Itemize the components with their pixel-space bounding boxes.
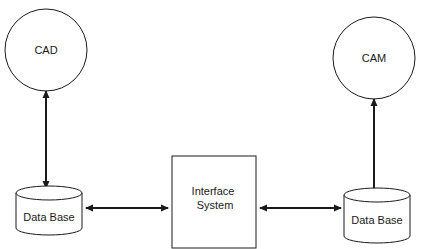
db-right-node: Data Base — [344, 188, 410, 243]
cam-label: CAM — [362, 52, 386, 64]
cad-node: CAD — [5, 9, 87, 91]
interface-system-node: Interface System — [172, 156, 256, 248]
interface-label-line2: System — [197, 199, 234, 211]
cam-node: CAM — [333, 17, 415, 99]
interface-label-line1: Interface — [192, 185, 235, 197]
db-right-label: Data Base — [351, 214, 402, 226]
cad-label: CAD — [34, 44, 57, 56]
db-left-node: Data Base — [16, 186, 82, 235]
db-left-label: Data Base — [23, 211, 74, 223]
diagram-canvas: CAD Data Base Interface System CAM Data … — [0, 0, 425, 249]
